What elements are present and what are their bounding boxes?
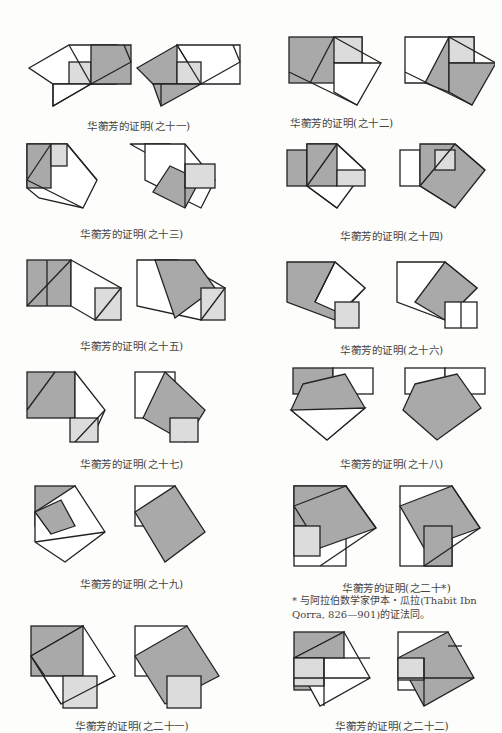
figure-caption: 华蘅芳的证明(之十九)	[80, 576, 184, 591]
figure-caption: 华蘅芳的证明(之十三)	[80, 226, 184, 241]
figure-18: 华蘅芳的证明(之十八)	[285, 364, 495, 464]
figure-caption: 华蘅芳的证明(之十七)	[80, 456, 184, 471]
figure-12: 华蘅芳的证明(之十二)	[285, 33, 495, 133]
figure-19: 华蘅芳的证明(之十九)	[25, 482, 245, 592]
figure-16: 华蘅芳的证明(之十六)	[285, 258, 495, 358]
figure-caption: 华蘅芳的证明(之十二)	[290, 115, 394, 130]
figure-caption: 华蘅芳的证明(之十一)	[87, 118, 191, 133]
diagram	[285, 33, 495, 113]
diagram	[25, 258, 245, 328]
diagram	[25, 40, 245, 110]
diagram	[285, 258, 495, 338]
figure-caption: 华蘅芳的证明(之十五)	[80, 338, 184, 353]
figure-11: 华蘅芳的证明(之十一)	[25, 40, 245, 130]
figure-20: 华蘅芳的证明(之二十*) * 与阿拉伯数学家伊本・瓜拉(Thabit Ibn Q…	[290, 482, 500, 622]
diagram	[25, 140, 245, 215]
diagram	[285, 140, 495, 220]
diagram	[25, 370, 245, 450]
figure-footnote: * 与阿拉伯数学家伊本・瓜拉(Thabit Ibn Qorra, 826—901…	[292, 594, 502, 622]
figure-caption: 华蘅芳的证明(之二十一)	[75, 718, 189, 733]
figure-15: 华蘅芳的证明(之十五)	[25, 258, 245, 358]
figure-22: 华蘅芳的证明(之二十二)	[290, 628, 500, 731]
diagram	[285, 364, 495, 449]
figure-caption: 华蘅芳的证明(之二十二)	[335, 718, 449, 733]
diagram	[290, 482, 500, 572]
figure-caption: 华蘅芳的证明(之十八)	[340, 456, 444, 471]
figure-caption: 华蘅芳的证明(之二十*)	[342, 580, 451, 595]
diagram	[25, 482, 245, 572]
figure-13: 华蘅芳的证明(之十三)	[25, 140, 245, 240]
figure-caption: 华蘅芳的证明(之十四)	[340, 228, 444, 243]
figure-14: 华蘅芳的证明(之十四)	[285, 140, 495, 240]
figure-17: 华蘅芳的证明(之十七)	[25, 370, 245, 470]
figure-21: 华蘅芳的证明(之二十一)	[25, 622, 245, 731]
diagram	[25, 622, 245, 712]
diagram	[290, 628, 500, 718]
figure-caption: 华蘅芳的证明(之十六)	[340, 342, 444, 357]
